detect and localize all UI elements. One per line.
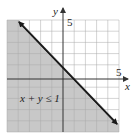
x-axis-label: x (125, 81, 130, 92)
y-axis-label: y (53, 6, 58, 17)
y-tick-label: 5 (67, 17, 73, 28)
x-tick-label: 5 (116, 67, 122, 78)
inequality-label: x + y ≤ 1 (20, 93, 60, 104)
